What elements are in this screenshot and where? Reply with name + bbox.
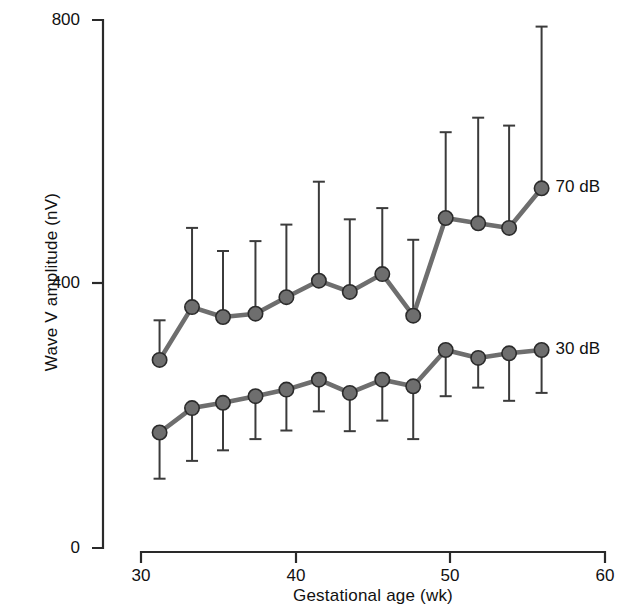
data-point-marker [471,351,485,365]
error-bar [186,228,198,307]
x-tick-label-30: 30 [111,566,171,586]
data-point-marker [534,343,548,357]
data-point-marker [375,267,389,281]
data-point-marker [216,396,230,410]
x-tick-label-40: 40 [266,566,326,586]
error-bar [536,27,548,189]
data-point-marker [375,373,389,387]
error-bar [440,132,452,218]
error-bar [503,126,515,228]
data-point-marker [312,373,326,387]
y-tick-label-400: 400 [20,273,80,293]
data-point-marker [439,343,453,357]
data-point-marker [534,181,548,195]
data-point-marker [248,307,262,321]
data-point-marker [216,310,230,324]
y-tick-label-800: 800 [20,10,80,30]
plot-area [0,0,621,615]
error-bar [376,208,388,274]
series-label-30db: 30 dB [556,339,600,359]
error-bar [280,225,292,298]
data-point-marker [185,401,199,415]
y-tick-label-0: 0 [20,538,80,558]
data-point-marker [185,300,199,314]
x-tick-label-60: 60 [575,566,621,586]
data-point-marker [439,211,453,225]
x-axis-title: Gestational age (wk) [141,586,605,606]
error-bar [313,182,325,281]
data-point-marker [279,290,293,304]
data-point-marker [406,379,420,393]
data-point-marker [502,221,516,235]
chart-figure: Wave V amplitude (nV) Gestational age (w… [0,0,621,615]
error-bar [472,118,484,224]
error-bar [217,251,229,317]
series-label-70db: 70 dB [556,177,600,197]
data-point-marker [343,386,357,400]
data-point-marker [502,346,516,360]
data-point-marker [152,353,166,367]
data-point-marker [279,382,293,396]
data-point-marker [406,309,420,323]
data-point-marker [312,274,326,288]
data-point-marker [248,389,262,403]
error-bar [249,241,261,314]
x-axis-line [141,552,605,563]
x-tick-label-50: 50 [420,566,480,586]
series-30db [152,343,548,479]
data-point-marker [343,285,357,299]
data-point-marker [152,425,166,439]
error-bar [344,219,356,292]
data-point-marker [471,216,485,230]
series-70db [152,27,548,367]
